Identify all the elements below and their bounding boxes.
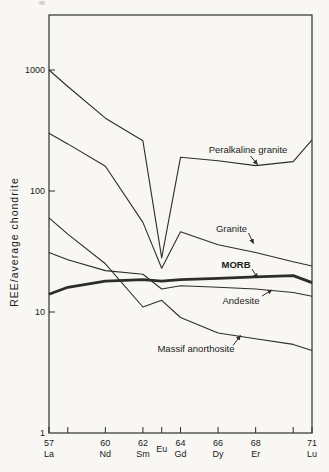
y-tick-label-1: 1 <box>40 428 45 438</box>
x-tick-number-68: 68 <box>251 438 261 448</box>
annotation-arrow-massif-anorthosite <box>233 336 241 346</box>
series-label-peralkaline-granite: Peralkaline granite <box>209 144 288 155</box>
x-tick-number-57: 57 <box>44 438 54 448</box>
x-tick-number-66: 66 <box>213 438 223 448</box>
y-tick-label-1000: 1000 <box>25 65 45 75</box>
plot-frame <box>49 15 312 433</box>
series-label-granite: Granite <box>216 223 247 234</box>
series-line-peralkaline-granite <box>49 70 312 258</box>
x-tick-number-71: 71 <box>307 438 317 448</box>
x-tick-number-64: 64 <box>175 438 185 448</box>
annotation-arrow-peralkaline-granite <box>251 156 258 165</box>
x-tick-number-60: 60 <box>100 438 110 448</box>
series-label-andesite: Andesite <box>223 295 260 306</box>
x-element-label-La: La <box>44 449 54 459</box>
x-element-label-Nd: Nd <box>100 449 112 459</box>
x-tick-number-62: 62 <box>138 438 148 448</box>
annotation-arrow-granite <box>249 233 254 244</box>
x-element-label-Sm: Sm <box>136 449 150 459</box>
series-line-morb <box>49 276 312 295</box>
x-element-label-Dy: Dy <box>213 449 224 459</box>
ree-plot-canvas: 110100100057La60Nd62SmEu64Gd66Dy68Er71Lu… <box>0 0 329 472</box>
x-element-label-Lu: Lu <box>307 449 317 459</box>
annotation-arrow-andesite <box>262 290 272 296</box>
x-element-label-Eu: Eu <box>156 444 167 454</box>
y-tick-label-100: 100 <box>30 186 45 196</box>
x-element-label-Gd: Gd <box>174 449 186 459</box>
y-tick-label-10: 10 <box>35 307 45 317</box>
series-line-andesite <box>49 253 312 297</box>
ree-chondrite-figure: REE/average chondrite 110100100057La60Nd… <box>0 0 329 472</box>
series-label-massif-anorthosite: Massif anorthosite <box>157 343 234 354</box>
x-element-label-Er: Er <box>251 449 260 459</box>
series-label-morb: MORB <box>221 259 250 270</box>
